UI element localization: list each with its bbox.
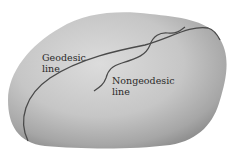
nongeodesic-line-label: Nongeodesic line xyxy=(112,75,175,97)
geodesic-line-label: Geodesic line xyxy=(42,52,86,74)
